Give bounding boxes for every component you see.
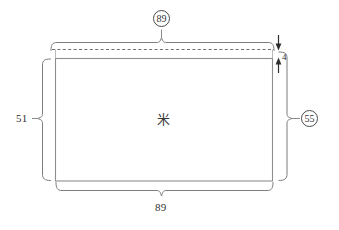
bottom-width-label: 89: [155, 202, 166, 213]
bottom-dimension-brace: [56, 183, 273, 197]
right-height-label-circled: 55: [301, 110, 318, 127]
gap-dimension-arrows: [276, 35, 282, 73]
top-dimension-brace: [51, 38, 274, 51]
left-dimension-brace: [38, 59, 51, 181]
patent-figure: 89 89 51 55 4 米: [0, 0, 339, 230]
right-dimension-brace: [279, 52, 292, 181]
top-width-label-circled: 89: [153, 10, 170, 27]
gap-arrow-lower-head: [276, 58, 282, 65]
gap-arrow-upper-head: [276, 44, 282, 51]
gap-dimension-label: 4: [282, 53, 287, 62]
left-height-label: 51: [16, 113, 27, 124]
center-symbol-glyph: 米: [157, 113, 170, 126]
